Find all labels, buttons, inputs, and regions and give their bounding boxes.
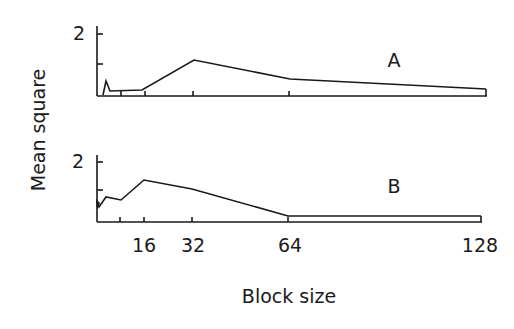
panel-a-ytick-2: 2	[73, 22, 85, 44]
chart-figure: Mean square 2 A 2 B 16 32 64 128 Block s…	[0, 0, 514, 329]
xtick-128: 128	[462, 234, 498, 256]
x-axis-label: Block size	[242, 285, 336, 307]
y-axis-label: Mean square	[27, 69, 49, 192]
panel-b-axes	[97, 155, 482, 222]
panel-a-series-line	[103, 60, 486, 95]
xtick-64: 64	[278, 234, 302, 256]
panel-b-ytick-2: 2	[72, 150, 84, 172]
xtick-32: 32	[181, 234, 205, 256]
panel-b-series-line	[97, 180, 481, 216]
xtick-16: 16	[132, 234, 156, 256]
panel-a-label: A	[388, 49, 401, 71]
panel-b-label: B	[387, 175, 400, 197]
